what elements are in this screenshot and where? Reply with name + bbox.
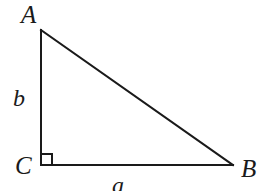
right-angle-marker-icon: [41, 154, 52, 165]
vertex-label-b: B: [241, 156, 256, 181]
vertex-label-c: C: [15, 153, 32, 178]
hypotenuse-line: [41, 30, 233, 165]
side-label-a: a: [112, 173, 124, 191]
vertex-label-a: A: [21, 2, 36, 27]
right-triangle-figure: A B C b a: [0, 0, 264, 191]
side-label-b: b: [13, 86, 25, 110]
triangle-drawing: [0, 0, 264, 191]
